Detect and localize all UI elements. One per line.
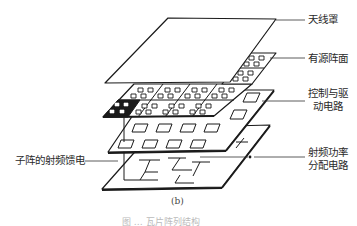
label-control-driver-line2: 动电路 <box>313 100 343 112</box>
exploded-array-diagram <box>0 0 357 226</box>
label-control-driver: 控制与驱 动电路 <box>307 87 349 113</box>
label-rf-power-line1: 射频功率 <box>308 146 348 158</box>
label-radome: 天线罩 <box>308 13 338 26</box>
figure-caption: 图 … 瓦片阵列结构 <box>122 215 200 226</box>
subfigure-label: (b) <box>171 196 184 206</box>
label-rf-power-distribution: 射频功率 分配电路 <box>307 146 349 172</box>
label-control-driver-line1: 控制与驱 <box>308 87 348 99</box>
label-active-array: 有源阵面 <box>308 52 348 65</box>
label-subarray-rf-feed: 子阵的射频馈电 <box>15 154 85 167</box>
label-rf-power-line2: 分配电路 <box>308 159 348 171</box>
